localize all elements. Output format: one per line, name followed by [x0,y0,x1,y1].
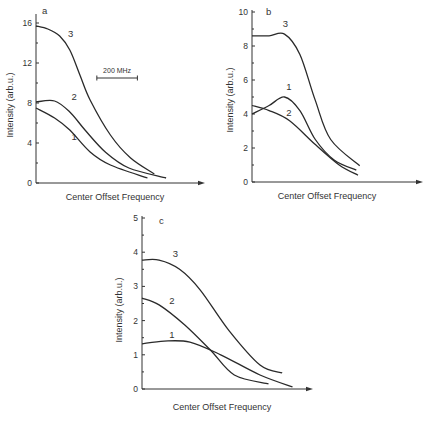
y-tick-label: 2 [133,316,138,326]
panel-b: 0246810bIntensity (arb.u.)Center Offset … [225,6,423,201]
y-tick-label: 4 [243,109,248,119]
series-3-label: 3 [68,28,73,39]
series-3-line [142,259,282,373]
series-2-label: 2 [71,91,76,102]
x-axis-arrow-icon [198,181,205,185]
y-tick-label: 2 [243,143,248,153]
series-1-line [142,341,293,387]
y-axis-label: Intensity (arb.u.) [225,67,235,132]
series-3-line [36,26,154,174]
scale-bar: 200 MHz [97,67,138,81]
series-1-label: 1 [286,81,291,92]
y-tick-label: 0 [27,178,32,188]
y-tick-label: 6 [243,75,248,85]
series-1-line [36,108,148,178]
panel-a: 0481216aIntensity (arb.u.)Center Offset … [5,5,205,202]
y-tick-label: 1 [133,350,138,360]
y-axis-label: Intensity (arb.u.) [114,277,124,342]
x-axis-label: Center Offset Frequency [173,402,272,412]
series-1-label: 1 [71,131,76,142]
series-3-line [252,33,360,166]
y-tick-label: 10 [239,7,249,17]
scale-bar-label: 200 MHz [103,67,132,74]
panel-label: c [159,215,164,226]
series-3-label: 3 [173,248,178,259]
panel-c: 012345cIntensity (arb.u.)Center Offset F… [114,213,313,412]
y-tick-label: 8 [27,98,32,108]
y-tick-label: 4 [133,247,138,257]
series-1-label: 1 [169,329,174,340]
x-axis-arrow-icon [416,180,423,184]
x-axis-label: Center Offset Frequency [66,192,165,202]
y-tick-label: 4 [27,138,32,148]
x-axis-label: Center Offset Frequency [278,191,377,201]
y-tick-label: 5 [133,213,138,223]
y-axis-label: Intensity (arb.u.) [5,72,15,137]
panel-label: a [42,5,48,16]
series-2-label: 2 [169,295,174,306]
y-tick-label: 16 [23,18,33,28]
y-tick-label: 12 [23,58,33,68]
y-tick-label: 0 [133,384,138,394]
series-2-line [36,100,166,178]
y-tick-label: 0 [243,177,248,187]
figure: 0481216aIntensity (arb.u.)Center Offset … [0,0,425,421]
y-tick-label: 8 [243,41,248,51]
series-2-label: 2 [286,107,291,118]
x-axis-arrow-icon [306,387,313,391]
panel-label: b [266,6,271,17]
series-3-label: 3 [283,18,288,29]
y-tick-label: 3 [133,281,138,291]
